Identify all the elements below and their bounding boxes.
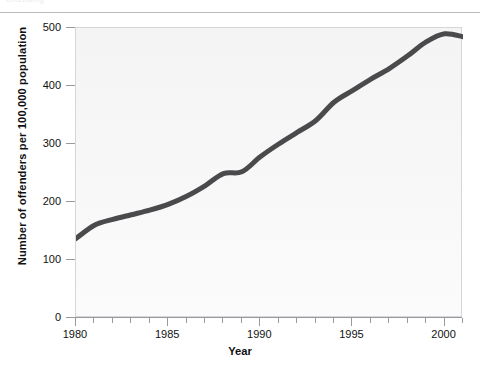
x-tick-1984: [149, 318, 150, 323]
x-tick-2001: [462, 318, 463, 323]
x-tick-1998: [407, 318, 408, 323]
y-tick-0: 0: [0, 312, 75, 322]
line-series-chart: [76, 28, 463, 318]
y-tick-500: 500: [0, 22, 75, 32]
y-tick-200: 200: [0, 196, 75, 206]
x-tick-1993: [315, 318, 316, 323]
y-tick-mark: [66, 259, 75, 260]
x-tick-1982: [112, 318, 113, 323]
x-axis-line: [75, 317, 462, 318]
top-cutoff-text-strip: Offending: [0, 0, 480, 11]
y-tick-label: 500: [21, 22, 61, 32]
y-tick-300: 300: [0, 138, 75, 148]
y-tick-400: 400: [0, 80, 75, 90]
x-tick-1990: [259, 318, 260, 326]
x-tick-1986: [186, 318, 187, 323]
x-tick-1981: [93, 318, 94, 323]
x-tick-label: 1985: [142, 328, 192, 340]
y-tick-mark: [66, 27, 75, 28]
x-tick-1980: [75, 318, 76, 326]
x-tick-2000: [444, 318, 445, 326]
y-tick-mark: [66, 201, 75, 202]
chart-page: Offending Number of offenders per 100,00…: [0, 0, 480, 375]
x-tick-label: 2000: [419, 328, 469, 340]
y-tick-label: 200: [21, 196, 61, 206]
x-tick-1994: [333, 318, 334, 323]
plot-area: [75, 27, 462, 317]
y-tick-label: 100: [21, 254, 61, 264]
x-tick-1995: [351, 318, 352, 326]
x-tick-label: 1995: [326, 328, 376, 340]
y-tick-mark: [66, 85, 75, 86]
x-tick-1985: [167, 318, 168, 326]
x-tick-label: 1980: [50, 328, 100, 340]
x-tick-1997: [388, 318, 389, 323]
x-tick-1996: [370, 318, 371, 323]
y-tick-100: 100: [0, 254, 75, 264]
x-tick-label: 1990: [234, 328, 284, 340]
x-tick-1999: [425, 318, 426, 323]
y-tick-mark: [66, 143, 75, 144]
cutoff-header-text: Offending: [6, 0, 44, 4]
x-tick-1989: [241, 318, 242, 323]
header-divider-rule: [0, 12, 480, 13]
x-tick-1988: [222, 318, 223, 323]
y-tick-label: 400: [21, 80, 61, 90]
y-tick-mark: [66, 317, 75, 318]
x-tick-1991: [278, 318, 279, 323]
x-tick-1983: [130, 318, 131, 323]
x-tick-1987: [204, 318, 205, 323]
x-axis-title: Year: [0, 345, 480, 357]
y-tick-label: 0: [21, 312, 61, 322]
y-tick-label: 300: [21, 138, 61, 148]
data-line-series-0: [76, 34, 463, 239]
x-tick-1992: [296, 318, 297, 323]
